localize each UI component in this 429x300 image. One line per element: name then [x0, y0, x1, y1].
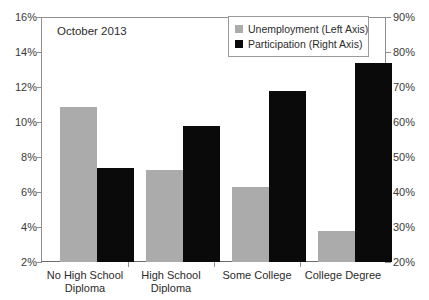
- bar-unemployment-high-school-diploma: [146, 170, 183, 262]
- x-axis-separator: [214, 262, 215, 267]
- legend-label-unemployment: Unemployment (Left Axis): [248, 24, 368, 35]
- bar-unemployment-no-high-school-diploma: [60, 107, 97, 262]
- legend-swatch-unemployment: [235, 25, 243, 33]
- left-axis-tick-label: 2%: [0, 257, 37, 268]
- bar-participation-high-school-diploma: [183, 126, 220, 262]
- right-axis-tick-label: 60%: [393, 117, 429, 128]
- left-axis-tick-mark: [36, 262, 42, 263]
- legend-item-participation: Participation (Right Axis): [235, 37, 362, 51]
- chart-legend: Unemployment (Left Axis) Participation (…: [228, 16, 369, 57]
- category-label-college-degree: College Degree: [300, 269, 386, 282]
- left-axis-tick-label: 14%: [0, 47, 37, 58]
- right-axis-tick-label: 70%: [393, 82, 429, 93]
- category-label-line: Diploma: [42, 282, 128, 295]
- category-label-line: College Degree: [300, 269, 386, 282]
- category-label-high-school-diploma: High School Diploma: [128, 269, 214, 295]
- right-axis-tick-mark: [385, 262, 391, 263]
- category-label-line: Some College: [214, 269, 300, 282]
- left-axis-tick-label: 8%: [0, 152, 37, 163]
- legend-swatch-participation: [235, 40, 243, 48]
- category-label-some-college: Some College: [214, 269, 300, 282]
- right-axis-tick-label: 40%: [393, 187, 429, 198]
- right-axis-tick-label: 90%: [393, 12, 429, 23]
- category-label-line: High School: [128, 269, 214, 282]
- bar-participation-no-high-school-diploma: [97, 168, 134, 262]
- legend-label-participation: Participation (Right Axis): [248, 39, 362, 50]
- bar-unemployment-some-college: [232, 187, 269, 262]
- bar-participation-college-degree: [355, 63, 392, 262]
- x-axis-separator: [128, 262, 129, 267]
- chart-annotation: October 2013: [57, 25, 127, 38]
- bar-unemployment-college-degree: [318, 231, 355, 262]
- bar-participation-some-college: [269, 91, 306, 262]
- left-axis-tick-label: 6%: [0, 187, 37, 198]
- category-label-no-high-school-diploma: No High School Diploma: [42, 269, 128, 295]
- right-axis-tick-label: 80%: [393, 47, 429, 58]
- right-axis-tick-label: 20%: [393, 257, 429, 268]
- chart-container: 16% 14% 12% 10% 8% 6% 4% 2% 90% 80% 70% …: [0, 0, 429, 300]
- left-axis-tick-label: 12%: [0, 82, 37, 93]
- legend-item-unemployment: Unemployment (Left Axis): [235, 22, 362, 36]
- category-label-line: No High School: [42, 269, 128, 282]
- category-label-line: Diploma: [128, 282, 214, 295]
- left-axis-tick-label: 4%: [0, 222, 37, 233]
- left-axis-tick-label: 16%: [0, 12, 37, 23]
- right-axis-tick-label: 50%: [393, 152, 429, 163]
- left-axis-tick-label: 10%: [0, 117, 37, 128]
- x-axis-separator: [300, 262, 301, 267]
- right-axis-tick-label: 30%: [393, 222, 429, 233]
